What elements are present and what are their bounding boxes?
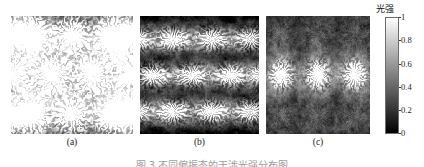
figure-caption: 图 3 不同偏振态的干涉光强分布图 bbox=[0, 158, 424, 167]
figure-container: (a) (b) (c) 光强 1 0.8 0.6 0.4 0.2 0 图 3 不… bbox=[0, 0, 424, 167]
colorbar-tick-label: 0.6 bbox=[401, 60, 412, 69]
panel-a-label: (a) bbox=[11, 137, 133, 147]
panel-a-canvas bbox=[11, 16, 133, 134]
colorbar-tick-label: 0.2 bbox=[401, 106, 412, 115]
image-panel-a bbox=[11, 16, 133, 134]
colorbar-gradient bbox=[385, 17, 399, 134]
colorbar-tick-label: 1 bbox=[401, 13, 405, 22]
panel-c-canvas bbox=[266, 16, 370, 134]
colorbar-tick-label: 0.4 bbox=[401, 83, 412, 92]
figure-caption-text: 图 3 不同偏振态的干涉光强分布图 bbox=[136, 158, 289, 167]
panel-c-label: (c) bbox=[266, 137, 370, 147]
panel-b-canvas bbox=[140, 16, 259, 134]
image-panel-c bbox=[266, 16, 370, 134]
image-panel-b bbox=[140, 16, 259, 134]
colorbar-tick-label: 0.8 bbox=[401, 36, 412, 45]
colorbar-tick-label: 0 bbox=[401, 129, 405, 138]
colorbar bbox=[385, 17, 399, 134]
colorbar-title: 光强 bbox=[376, 2, 394, 15]
panel-b-label: (b) bbox=[140, 137, 259, 147]
